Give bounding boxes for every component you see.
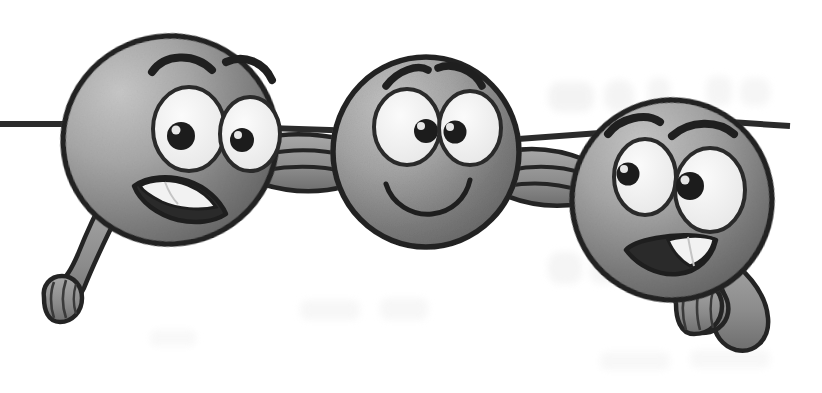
character-middle	[333, 57, 519, 247]
illustration-canvas: Three linked cartoon ball characters	[0, 0, 822, 393]
ghost-mark	[150, 330, 196, 346]
right-eye-right	[675, 148, 745, 232]
left-eye-left	[153, 87, 225, 171]
right-eye-left	[614, 139, 676, 215]
ghost-mark	[300, 300, 360, 320]
ghost-mark	[706, 76, 732, 106]
ghost-mark	[600, 352, 670, 370]
ghost-mark	[548, 82, 594, 112]
ghost-mark	[548, 252, 582, 284]
middle-eye-left	[374, 89, 440, 165]
ghost-mark	[740, 78, 770, 106]
ghost-mark	[380, 298, 428, 320]
left-eye-right	[220, 97, 280, 171]
ghost-mark	[690, 350, 770, 368]
cartoon-scene-svg	[0, 0, 822, 393]
middle-eye-right	[439, 91, 501, 165]
